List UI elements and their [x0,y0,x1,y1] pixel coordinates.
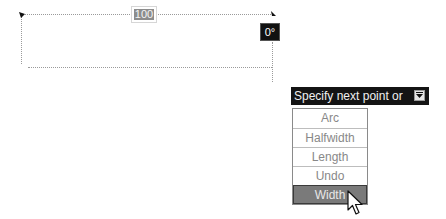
menu-item-undo[interactable]: Undo [293,166,367,185]
tracking-line-top-left [22,14,130,15]
angle-tooltip: 0° [260,23,280,41]
menu-item-halfwidth[interactable]: Halfwidth [293,128,367,147]
tracking-line-top-right [158,14,271,15]
tracking-line-right [272,42,273,82]
tracking-line-left [21,16,22,64]
crosshair-point-icon [269,10,277,18]
command-prompt: Specify next point or [291,87,429,105]
dimension-input[interactable]: 100 [134,9,154,20]
start-point-icon [18,11,26,19]
dimension-input-box[interactable]: 100 [131,6,157,23]
menu-item-arc[interactable]: Arc [293,109,367,128]
tracking-line-bottom [28,67,272,68]
prompt-text: Specify next point or [294,89,403,103]
down-arrow-icon[interactable] [414,90,425,101]
arrow-cursor-icon [346,190,366,218]
menu-item-length[interactable]: Length [293,147,367,166]
